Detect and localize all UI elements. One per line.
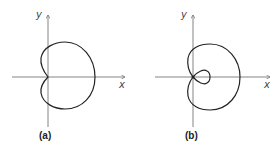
caption-a: (a)	[39, 130, 51, 141]
figure-canvas: y x (a) y x (b)	[0, 0, 279, 157]
caption-b: (b)	[185, 130, 198, 141]
cardioid-curve	[41, 42, 95, 109]
y-label-b: y	[180, 9, 188, 20]
origin-point	[192, 76, 195, 79]
x-label-b: x	[263, 79, 270, 90]
panel-a: y x (a)	[12, 9, 125, 141]
x-label-a: x	[118, 79, 125, 90]
y-label-a: y	[35, 9, 43, 20]
panel-b: y x (b)	[155, 9, 270, 141]
